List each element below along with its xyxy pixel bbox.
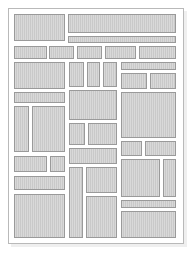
content-block xyxy=(69,167,83,238)
content-block xyxy=(69,90,117,120)
content-block xyxy=(121,159,160,197)
content-block xyxy=(14,176,65,190)
content-block xyxy=(121,200,176,208)
content-block xyxy=(139,46,176,59)
content-block xyxy=(87,62,100,87)
screenshot-stage xyxy=(0,0,192,259)
content-block xyxy=(69,62,84,87)
content-block xyxy=(14,194,65,238)
content-block xyxy=(163,159,176,197)
content-block xyxy=(121,141,142,156)
content-block xyxy=(50,156,65,172)
content-block xyxy=(14,14,65,41)
content-block xyxy=(14,62,65,89)
content-block xyxy=(105,46,136,59)
content-block xyxy=(14,92,65,103)
content-block xyxy=(69,148,117,164)
content-block xyxy=(150,73,176,89)
content-block xyxy=(68,14,176,33)
content-block xyxy=(14,156,47,172)
content-block xyxy=(77,46,102,59)
content-block xyxy=(121,211,176,238)
content-block xyxy=(14,106,29,152)
content-block xyxy=(69,123,85,145)
content-block xyxy=(121,62,176,70)
content-block xyxy=(86,196,117,238)
content-block xyxy=(68,36,176,43)
content-block xyxy=(121,92,176,138)
content-block xyxy=(88,123,117,145)
content-blocks-layer xyxy=(0,0,192,259)
content-block xyxy=(49,46,74,59)
content-block xyxy=(145,141,176,156)
content-block xyxy=(32,106,65,152)
content-block xyxy=(14,46,47,59)
content-block xyxy=(103,62,117,87)
content-block xyxy=(86,167,117,193)
content-block xyxy=(121,73,147,89)
